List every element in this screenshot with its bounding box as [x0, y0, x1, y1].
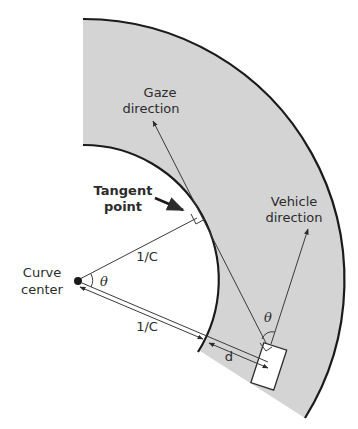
angle-center-label: θ	[100, 274, 108, 289]
vehicle-label-line2: direction	[266, 210, 323, 225]
gaze-label-line2: direction	[123, 101, 180, 116]
angle-arc-center	[91, 274, 93, 287]
tangent-point-diagram: Gaze direction Vehicle direction Tangent…	[0, 0, 358, 429]
angle-vehicle-label: θ	[264, 310, 272, 325]
tangent-label-line2: point	[104, 199, 142, 214]
gaze-label-line1: Gaze	[144, 85, 177, 100]
vehicle-label-line1: Vehicle	[271, 194, 318, 209]
center-label-line2: center	[21, 282, 63, 297]
tangent-point-pointer-arrow	[155, 198, 183, 210]
center-label-line1: Curve	[23, 265, 61, 280]
tangent-label-line1: Tangent	[94, 183, 153, 198]
distance-label: d	[225, 349, 233, 364]
radius-upper-label: 1/C	[136, 249, 158, 264]
radius-lower-label: 1/C	[136, 319, 158, 334]
curve-center-dot	[74, 277, 82, 285]
